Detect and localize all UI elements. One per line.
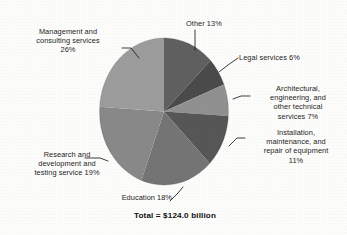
slice-label-other: Other 13%	[186, 19, 260, 28]
slice-label-education: Education 18%	[88, 193, 172, 202]
leader-line-legal	[219, 58, 238, 72]
slice-label-management-consulting: Management and consulting services 26%	[12, 27, 124, 55]
slice-label-architectural: Architectural, engineering, and other te…	[252, 84, 344, 121]
leader-line-installation	[229, 138, 245, 146]
slice-label-research-development: Research and development and testing ser…	[12, 150, 122, 178]
pie-chart-figure: Management and consulting services 26% O…	[0, 0, 347, 235]
leader-line-architectural	[233, 96, 250, 99]
slice-label-installation: Installation, maintenance, and repair of…	[246, 128, 346, 165]
chart-total-caption: Total = $124.0 billion	[95, 211, 255, 220]
slice-label-legal-services: Legal services 6%	[239, 53, 339, 62]
